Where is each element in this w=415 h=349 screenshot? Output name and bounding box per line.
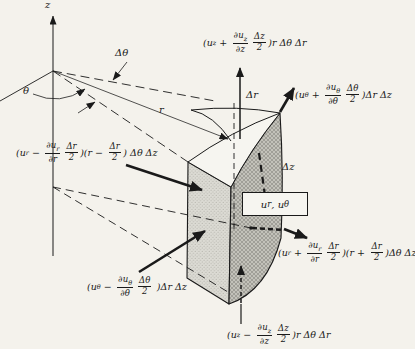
top-far-edge xyxy=(191,108,280,113)
r-vector xyxy=(53,71,228,139)
label-flux-z-minus: (uz − ∂uz∂zΔz2)r Δθ Δr xyxy=(227,323,330,346)
delta-theta-pointer-lower xyxy=(78,102,95,113)
r-label: r xyxy=(159,105,164,115)
delta-z-label: Δz xyxy=(282,162,295,172)
label-flux-r-plus: (ur + ∂ur∂rΔr2)(r + Δr2)Δθ Δz xyxy=(278,241,415,264)
z-axis-label: z xyxy=(45,0,50,10)
delta-theta-pointer-upper xyxy=(113,62,127,80)
center-velocity-box: ur, uθ xyxy=(242,192,308,216)
delta-r-label: Δr xyxy=(246,90,258,100)
label-flux-theta-minus: (uθ − ∂uθ∂θΔθ2 )Δr Δz xyxy=(87,275,187,298)
top-inner-arc xyxy=(191,110,231,141)
element-center-point xyxy=(249,226,253,230)
theta-label: θ xyxy=(23,86,29,96)
flux-arrow-r-plus xyxy=(284,229,307,238)
theta-angle-arc xyxy=(33,89,85,99)
label-flux-z-plus: (uz + ∂uz∂zΔz2)r Δθ Δr xyxy=(203,31,306,54)
flux-arrow-theta-plus xyxy=(280,88,294,112)
delta-theta-label: Δθ xyxy=(115,48,128,58)
label-flux-theta-plus: (uθ + ∂uθ∂θΔθ2)Δr Δz xyxy=(295,83,392,106)
label-flux-r-minus: (ur − ∂ur∂rΔr2)(r − Δr2) Δθ Δz xyxy=(16,141,158,164)
cylindrical-control-volume-figure: z Δθ θ r Δr Δz (uz + ∂uz∂zΔz2)r Δθ Δr (u… xyxy=(0,0,415,349)
radial-dashed-upper xyxy=(53,71,215,101)
